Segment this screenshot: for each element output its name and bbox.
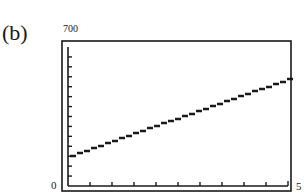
screen-frame [62,41,291,191]
series-line [70,79,293,156]
plot-area [0,0,304,196]
series-group [70,79,293,156]
